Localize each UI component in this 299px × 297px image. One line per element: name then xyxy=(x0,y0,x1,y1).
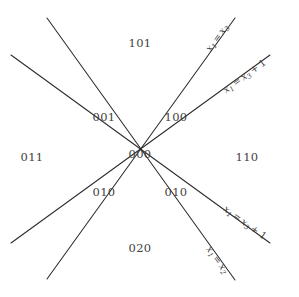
region-label-010-7: 010 xyxy=(164,185,187,199)
region-label-101-0: 101 xyxy=(128,36,151,50)
region-label-110-5: 110 xyxy=(235,150,258,164)
hyperplane-arrangement-figure: 101001100011000110010010020 x1=x3x1=x3+ … xyxy=(0,0,299,297)
region-label-100-2: 100 xyxy=(164,110,187,124)
region-label-000-4: 000 xyxy=(128,147,151,161)
region-label-011-3: 011 xyxy=(20,150,43,164)
region-label-010-6: 010 xyxy=(92,185,115,199)
region-label-020-8: 020 xyxy=(128,241,151,255)
region-label-001-1: 001 xyxy=(92,110,115,124)
